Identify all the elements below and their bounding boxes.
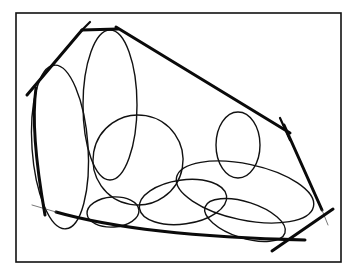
ellipse-e2 <box>83 30 137 180</box>
ellipse-e4 <box>216 112 260 178</box>
convex-hull <box>27 22 333 251</box>
hull-left-edge <box>34 88 45 215</box>
hull-upper-right-edge <box>116 27 290 133</box>
ellipse-e3 <box>86 108 190 212</box>
hull-top-edge <box>82 29 118 30</box>
ellipse-e5 <box>171 150 320 234</box>
figure-canvas <box>0 0 355 271</box>
hull-lower-right-edge <box>272 209 333 251</box>
hull-right-edge <box>284 125 322 210</box>
hull-upper-left-edge <box>27 30 82 95</box>
hull-bottom-edge <box>56 212 305 240</box>
ellipse-e7 <box>136 174 229 230</box>
